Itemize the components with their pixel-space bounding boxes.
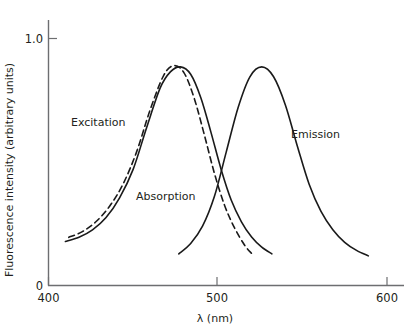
annotation-group: Excitation Absorption Emission [71, 116, 340, 203]
y-tick-label-top: 1.0 [25, 32, 43, 46]
x-axis-title: λ (nm) [197, 312, 233, 325]
tick-label-group: 1.0 0 400 500 600 [25, 32, 398, 305]
x-tick-label-400: 400 [38, 291, 60, 305]
label-emission: Emission [291, 128, 340, 141]
label-excitation: Excitation [71, 116, 126, 129]
label-absorption: Absorption [136, 190, 196, 203]
curve-emission [179, 67, 369, 256]
fluorescence-spectra-figure: 1.0 0 400 500 600 Fluorescence intensity… [0, 0, 412, 332]
y-axis-title: Fluorescence intensity (arbitrary units) [3, 63, 16, 277]
chart-canvas: 1.0 0 400 500 600 Fluorescence intensity… [0, 0, 412, 332]
x-tick-label-500: 500 [206, 291, 228, 305]
curves-group [65, 66, 368, 256]
curve-excitation [65, 67, 271, 254]
x-tick-label-600: 600 [376, 291, 398, 305]
